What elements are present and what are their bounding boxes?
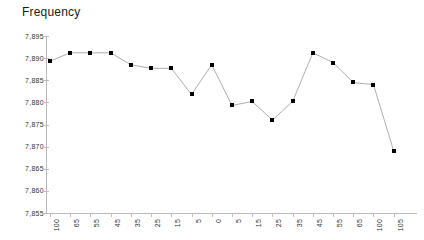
x-tick-mark bbox=[90, 213, 91, 217]
y-tick-label: 7,895 bbox=[6, 33, 44, 40]
x-tick-mark bbox=[394, 213, 395, 217]
data-point-marker bbox=[190, 92, 194, 96]
x-tick-mark bbox=[192, 213, 193, 217]
x-tick-label: 100 bbox=[53, 219, 60, 231]
x-tick-mark bbox=[232, 213, 233, 217]
x-tick-label: 65 bbox=[73, 219, 80, 227]
data-point-marker bbox=[371, 83, 375, 87]
x-tick-label: 5 bbox=[195, 219, 202, 223]
x-tick-label: 55 bbox=[93, 219, 100, 227]
data-point-marker bbox=[210, 63, 214, 67]
data-point-marker bbox=[250, 99, 254, 103]
x-tick-mark bbox=[111, 213, 112, 217]
data-point-marker bbox=[230, 103, 234, 107]
data-point-marker bbox=[129, 63, 133, 67]
data-point-marker bbox=[311, 51, 315, 55]
data-point-marker bbox=[351, 80, 355, 84]
x-tick-label: 0 bbox=[215, 219, 222, 223]
frequency-line-chart: Frequency 7,8957,8907,8857,8807,8757,870… bbox=[0, 0, 424, 240]
y-tick-label: 7,855 bbox=[6, 210, 44, 217]
x-tick-label: 45 bbox=[316, 219, 323, 227]
x-tick-label: 35 bbox=[134, 219, 141, 227]
x-tick-label: 45 bbox=[114, 219, 121, 227]
x-tick-mark bbox=[353, 213, 354, 217]
x-tick-mark bbox=[171, 213, 172, 217]
x-tick-mark bbox=[50, 213, 51, 217]
y-tick-label: 7,880 bbox=[6, 99, 44, 106]
x-tick-mark bbox=[373, 213, 374, 217]
x-tick-mark bbox=[313, 213, 314, 217]
y-tick-label: 7,870 bbox=[6, 143, 44, 150]
data-point-marker bbox=[270, 118, 274, 122]
x-tick-label: 25 bbox=[275, 219, 282, 227]
y-tick-label: 7,875 bbox=[6, 121, 44, 128]
x-tick-label: 65 bbox=[356, 219, 363, 227]
x-tick-label: 15 bbox=[174, 219, 181, 227]
data-point-marker bbox=[392, 149, 396, 153]
x-tick-mark bbox=[293, 213, 294, 217]
data-point-marker bbox=[48, 59, 52, 63]
x-tick-label: 55 bbox=[336, 219, 343, 227]
x-tick-mark bbox=[70, 213, 71, 217]
x-tick-mark bbox=[131, 213, 132, 217]
data-point-marker bbox=[109, 51, 113, 55]
data-point-marker bbox=[149, 66, 153, 70]
x-tick-mark bbox=[252, 213, 253, 217]
y-tick-label: 7,865 bbox=[6, 165, 44, 172]
y-axis-line bbox=[46, 36, 47, 214]
data-point-marker bbox=[169, 66, 173, 70]
y-axis-tick-labels: 7,8957,8907,8857,8807,8757,8707,8657,860… bbox=[0, 0, 44, 240]
x-tick-label: 25 bbox=[154, 219, 161, 227]
x-tick-mark bbox=[333, 213, 334, 217]
x-tick-label: 105 bbox=[397, 219, 404, 231]
series-line bbox=[0, 0, 424, 240]
y-tick-label: 7,890 bbox=[6, 55, 44, 62]
x-tick-label: 100 bbox=[376, 219, 383, 231]
y-tick-label: 7,860 bbox=[6, 187, 44, 194]
x-tick-mark bbox=[151, 213, 152, 217]
y-tick-label: 7,885 bbox=[6, 77, 44, 84]
x-tick-label: 5 bbox=[235, 219, 242, 223]
data-point-marker bbox=[88, 51, 92, 55]
x-tick-mark bbox=[212, 213, 213, 217]
x-tick-label: 35 bbox=[296, 219, 303, 227]
data-point-marker bbox=[291, 99, 295, 103]
x-tick-mark bbox=[272, 213, 273, 217]
x-tick-label: 15 bbox=[255, 219, 262, 227]
data-point-marker bbox=[68, 51, 72, 55]
data-point-marker bbox=[331, 61, 335, 65]
